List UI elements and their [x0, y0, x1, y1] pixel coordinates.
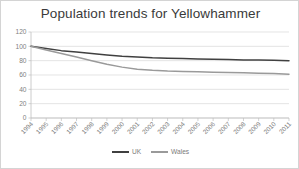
x-axis-tick-label: 2002 — [141, 120, 156, 135]
y-axis-tick-label: 0 — [23, 114, 27, 121]
y-axis-tick-label: 40 — [19, 86, 27, 93]
series-line-uk — [31, 46, 289, 60]
y-axis-tick-label: 120 — [15, 28, 26, 35]
x-axis-tick-label: 1997 — [65, 120, 80, 135]
x-axis-tick-label: 1994 — [19, 120, 34, 135]
legend-item-uk[interactable]: UK — [112, 149, 141, 156]
x-axis-tick-label: 2005 — [186, 120, 201, 135]
legend-item-wales[interactable]: Wales — [151, 149, 189, 156]
data-series — [31, 46, 289, 74]
x-axis-tick-label: 2003 — [156, 120, 171, 135]
chart-legend: UKWales — [1, 149, 299, 156]
x-axis-tick-label: 2004 — [171, 120, 186, 135]
y-axis-tick-label: 20 — [19, 100, 27, 107]
x-axis-tick-label: 1996 — [50, 120, 65, 135]
x-axis-tick-label: 1995 — [34, 120, 49, 135]
x-axis-tick-labels: 1994199519961997199819992000200120022003… — [19, 120, 292, 135]
x-axis-tick-label: 2001 — [125, 120, 140, 135]
x-axis-tick-label: 2011 — [278, 120, 293, 135]
x-axis-tick-label: 2009 — [247, 120, 262, 135]
chart-container: Population trends for Yellowhammer 02040… — [0, 0, 299, 169]
gridlines — [31, 32, 289, 118]
legend-swatch-uk — [112, 151, 129, 153]
x-axis-tick-label: 2000 — [110, 120, 125, 135]
y-axis-tick-label: 100 — [15, 43, 26, 50]
chart-plot-area: 020406080100120 199419951996199719981999… — [1, 1, 299, 169]
x-axis-tick-label: 2006 — [201, 120, 216, 135]
axis-lines — [29, 32, 290, 121]
legend-label: UK — [132, 149, 141, 156]
legend-label: Wales — [171, 149, 189, 156]
x-axis-tick-label: 2010 — [262, 120, 277, 135]
y-axis-tick-label: 80 — [19, 57, 27, 64]
x-axis-tick-label: 1998 — [80, 120, 95, 135]
legend-swatch-wales — [151, 151, 168, 153]
x-axis-tick-label: 2008 — [232, 120, 247, 135]
y-axis-tick-labels: 020406080100120 — [15, 28, 26, 121]
x-axis-tick-label: 2007 — [216, 120, 231, 135]
x-axis-tick-label: 1999 — [95, 120, 110, 135]
y-axis-tick-label: 60 — [19, 71, 27, 78]
